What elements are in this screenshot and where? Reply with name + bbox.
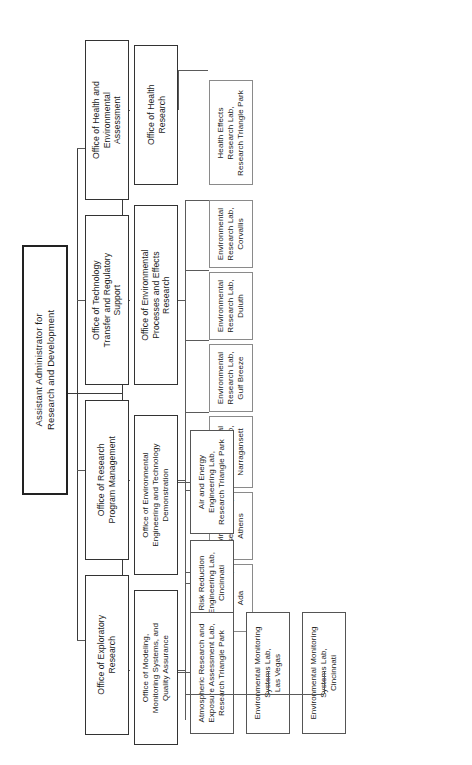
node-label: Office of Research Program Management — [96, 436, 117, 523]
connector — [178, 70, 179, 110]
connector — [185, 200, 209, 201]
connector — [178, 670, 186, 671]
connector — [77, 470, 85, 471]
connector — [185, 340, 209, 341]
node-office-of-research-program-management[interactable]: Office of Research Program Management — [85, 400, 129, 560]
node-air-and-energy-engineering-lab-research-triangle-park[interactable]: Air and Energy Engineering Lab, Research… — [190, 430, 234, 534]
node-label: Risk Reduction Engineering Lab, Cincinna… — [197, 552, 227, 614]
connector — [268, 672, 269, 694]
connector — [185, 412, 209, 413]
connector — [185, 694, 324, 695]
connector — [178, 70, 208, 71]
node-office-of-environmental-processes-and-effects-research[interactable]: Office of Environmental Processes and Ef… — [134, 205, 178, 385]
node-atmospheric-research-and-exposure-assessment-lab-research-triangle-park[interactable]: Atmospheric Research and Exposure Assess… — [190, 612, 234, 734]
node-label: Office of Exploratory Research — [96, 615, 117, 695]
connector — [77, 393, 122, 394]
node-label: Health Effects Research Lab, Research Tr… — [216, 90, 246, 176]
connector — [185, 480, 186, 584]
connector — [77, 300, 85, 301]
connector — [185, 482, 191, 483]
connector — [185, 600, 186, 720]
node-root-label: Assistant Administrator for Research and… — [33, 310, 57, 430]
org-chart-canvas: Assistant Administrator for Research and… — [0, 0, 472, 765]
node-office-of-health-research[interactable]: Office of Health Research — [134, 45, 178, 185]
connector — [185, 672, 191, 673]
node-label: Office of Health and Environmental Asses… — [91, 81, 123, 159]
connector — [77, 640, 85, 641]
node-label: Atmospheric Research and Exposure Assess… — [197, 623, 227, 722]
node-root[interactable]: Assistant Administrator for Research and… — [22, 245, 68, 495]
node-label: Air and Energy Engineering Lab, Research… — [197, 439, 227, 525]
connector — [77, 148, 78, 640]
connector — [185, 270, 209, 271]
node-label: Office of Modeling, Monitoring Systems, … — [141, 622, 171, 712]
node-environmental-research-lab-corvallis[interactable]: Environmental Research Lab, Corvallis — [209, 200, 253, 268]
node-environmental-research-lab-gulf-breeze[interactable]: Environmental Research Lab, Gulf Breeze — [209, 344, 253, 412]
connector — [77, 148, 85, 149]
node-label: Office of Health Research — [145, 85, 166, 146]
node-office-of-technology-transfer-and-regulatory-support[interactable]: Office of Technology Transfer and Regula… — [85, 215, 129, 385]
node-environmental-research-lab-duluth[interactable]: Environmental Research Lab, Duluth — [209, 272, 253, 340]
node-office-of-health-and-environmental-assessment[interactable]: Office of Health and Environmental Asses… — [85, 40, 129, 200]
node-office-of-environmental-engineering-and-technology-demonstration[interactable]: Office of Environmental Engineering and … — [134, 415, 178, 575]
node-health-effects-research-lab-research-triangle-park[interactable]: Health Effects Research Lab, Research Tr… — [209, 80, 253, 185]
node-label: Office of Environmental Processes and Ef… — [140, 249, 172, 340]
node-office-of-modeling-monitoring-systems-and-quality-assurance[interactable]: Office of Modeling, Monitoring Systems, … — [134, 590, 178, 745]
connector — [185, 583, 191, 584]
node-label: Office of Environmental Engineering and … — [141, 443, 171, 546]
connector — [324, 672, 325, 694]
node-label: Office of Technology Transfer and Regula… — [91, 253, 123, 348]
node-office-of-exploratory-research[interactable]: Office of Exploratory Research — [85, 575, 129, 735]
connector — [185, 672, 186, 694]
node-label: Environmental Research Lab, Corvallis — [216, 207, 246, 260]
node-label: Environmental Research Lab, Gulf Breeze — [216, 351, 246, 404]
node-label: Environmental Research Lab, Duluth — [216, 279, 246, 332]
connector — [178, 300, 186, 301]
